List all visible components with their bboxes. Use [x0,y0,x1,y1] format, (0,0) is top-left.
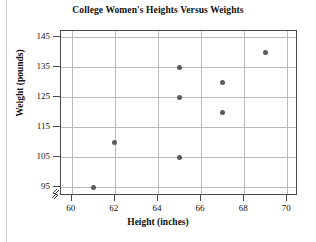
data-point [220,80,225,85]
x-axis-tick [157,195,158,201]
plot-area [60,30,297,195]
data-point [177,155,182,160]
y-axis-tick-label: 125 [10,92,50,101]
gridline-vertical [158,31,159,194]
y-axis-tick-label: 95 [10,182,50,191]
gridline-vertical [244,31,245,194]
y-axis-tick [53,156,60,157]
gridline-horizontal [61,187,296,188]
y-axis-tick-label: 135 [10,62,50,71]
x-axis-tick-label: 62 [99,203,129,213]
y-axis-tick [53,36,60,37]
x-axis-tick [200,195,201,201]
x-axis-tick-label: 68 [228,203,258,213]
gridline-horizontal [61,37,296,38]
data-point [177,95,182,100]
y-axis-tick [53,186,60,187]
scatter-chart: College Women's Heights Versus Weights W… [0,0,316,242]
y-axis-tick-label: 115 [10,122,50,131]
x-axis-tick-label: 60 [56,203,86,213]
x-axis-tick-label: 64 [142,203,172,213]
y-axis-tick [53,66,60,67]
x-axis-tick-label: 70 [271,203,301,213]
gridline-vertical [201,31,202,194]
y-axis-tick-label: 145 [10,32,50,41]
x-axis-title: Height (inches) [0,217,316,227]
data-point [220,110,225,115]
data-point [263,50,268,55]
data-point [91,185,96,190]
x-axis-tick [243,195,244,201]
x-axis-tick [114,195,115,201]
gridline-vertical [72,31,73,194]
y-axis-tick [53,96,60,97]
x-axis-tick [286,195,287,201]
gridline-vertical [115,31,116,194]
data-point [112,140,117,145]
y-axis-tick-label: 105 [10,152,50,161]
chart-title: College Women's Heights Versus Weights [0,5,316,15]
gridline-vertical [287,31,288,194]
y-axis-tick [53,126,60,127]
data-point [177,65,182,70]
gridline-horizontal [61,127,296,128]
x-axis-tick-label: 66 [185,203,215,213]
x-axis-tick [71,195,72,201]
